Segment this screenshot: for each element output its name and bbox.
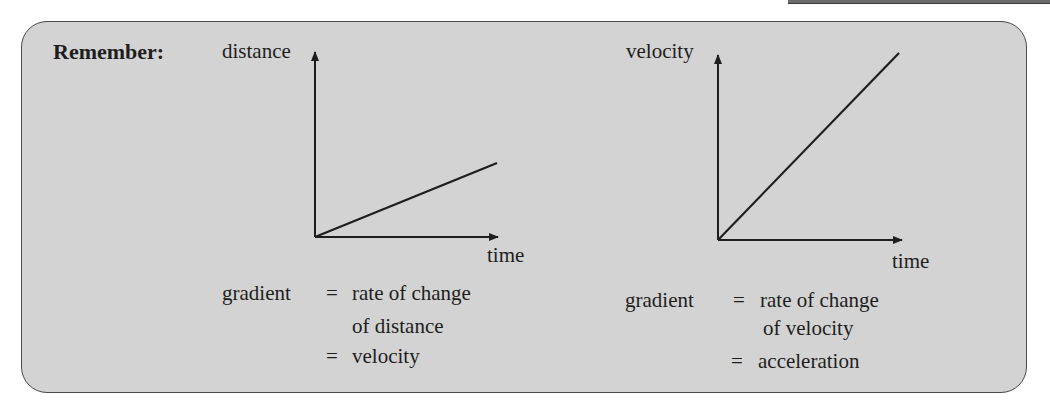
time-axis-label-left: time bbox=[487, 245, 524, 266]
rate-of-change-right: rate of change bbox=[760, 290, 879, 311]
of-distance-text: of distance bbox=[352, 316, 444, 337]
distance-gradient-line bbox=[315, 163, 497, 237]
velocity-axis-label: velocity bbox=[626, 41, 694, 62]
remember-heading: Remember: bbox=[53, 41, 164, 63]
distance-axis-label: distance bbox=[222, 41, 291, 62]
time-axis-label-right: time bbox=[892, 251, 929, 272]
gradient-label-right: gradient bbox=[625, 290, 694, 311]
distance-time-graph bbox=[315, 52, 498, 237]
rate-of-change-left: rate of change bbox=[352, 283, 471, 304]
of-velocity-text: of velocity bbox=[763, 318, 853, 339]
velocity-gradient-line bbox=[718, 53, 899, 240]
equals-sign-right-1: = bbox=[733, 290, 745, 311]
gradient-label-left: gradient bbox=[222, 283, 291, 304]
velocity-time-graph bbox=[718, 53, 902, 240]
equals-sign-right-2: = bbox=[731, 351, 743, 372]
equals-sign-left-1: = bbox=[326, 283, 338, 304]
acceleration-result-text: acceleration bbox=[758, 351, 859, 372]
equals-sign-left-2: = bbox=[326, 346, 338, 367]
velocity-result-text: velocity bbox=[352, 346, 420, 367]
